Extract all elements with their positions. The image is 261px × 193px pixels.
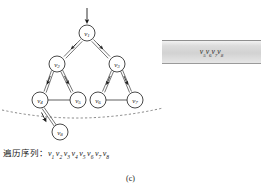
seq-item-2: v2	[56, 149, 62, 158]
seq-item-3: v3	[64, 149, 70, 158]
seq-item-6: v6	[87, 149, 93, 158]
seq-item-8: v8	[103, 149, 109, 158]
figure-caption: (c)	[0, 174, 261, 183]
edge-v1-v2	[64, 40, 82, 59]
node-v2[interactable]: v2	[49, 56, 65, 72]
seq-item-1: v1	[48, 149, 54, 158]
traversal-sequence: 遍历序列：v1v2v3v4v5v6v7v8	[3, 146, 111, 160]
edge-v2-v4	[44, 71, 54, 93]
graph-canvas: v1 v2 v3 v4 v5	[0, 0, 261, 193]
queue-box: v5v6v7v8	[162, 40, 261, 64]
seq-item-7: v7	[95, 149, 101, 158]
traversal-sequence-label: 遍历序列：	[3, 148, 48, 158]
traversal-sequence-items: v1v2v3v4v5v6v7v8	[48, 149, 111, 158]
node-v5[interactable]: v5	[70, 92, 86, 108]
node-v6[interactable]: v6	[90, 92, 106, 108]
edge-v3-v7	[121, 70, 132, 93]
queue-item-3-sub: 8	[221, 52, 224, 57]
seq-item-4: v4	[71, 149, 77, 158]
edge-v3-v6	[103, 71, 114, 93]
node-v3[interactable]: v3	[109, 56, 125, 72]
node-v8[interactable]: v8	[52, 124, 68, 140]
dashed-frontier-curve	[2, 108, 163, 118]
node-v4[interactable]: v4	[32, 92, 48, 108]
queue-contents: v5v6v7v8	[200, 47, 223, 58]
edge-v4-v8	[42, 107, 57, 126]
edge-v1-v3	[92, 40, 110, 59]
node-v1[interactable]: v1	[79, 25, 95, 41]
seq-item-5: v5	[79, 149, 85, 158]
edge-v2-v5	[61, 70, 73, 93]
node-v7[interactable]: v7	[127, 92, 143, 108]
node-v1-sub: 1	[87, 33, 90, 38]
figure-root: v1 v2 v3 v4 v5	[0, 0, 261, 193]
